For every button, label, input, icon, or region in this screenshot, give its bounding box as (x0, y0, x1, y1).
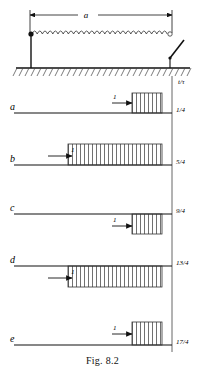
hatched-ground-plane (13, 68, 191, 76)
time-value-e: 17/4 (176, 338, 189, 346)
pulse-amplitude-a: 1 (113, 93, 117, 101)
figure-caption: Fig. 8.2 (0, 355, 205, 366)
waveform-row-c: 1 c 9/4 (10, 202, 185, 234)
time-value-d: 13/4 (176, 259, 189, 267)
open-terminal-dot (168, 32, 172, 36)
dimension-label-a: a (84, 10, 89, 20)
figure-8-2: a (0, 0, 205, 380)
row-label-a: a (10, 101, 15, 112)
row-label-b: b (10, 153, 15, 164)
time-axis-label: t/τ (178, 78, 185, 86)
time-value-b: 5/4 (176, 158, 185, 166)
dimension-a (30, 10, 172, 33)
open-switch[interactable] (168, 40, 184, 68)
circuit-diagram: a (13, 10, 191, 76)
pulse-amplitude-e: 1 (113, 324, 117, 332)
row-label-c: c (10, 202, 15, 213)
coil-inductor-line (32, 31, 167, 34)
pulse-amplitude-d: 1 (71, 268, 75, 276)
filled-dot-terminal (28, 31, 33, 36)
row-label-e: e (10, 333, 15, 344)
waveform-row-e: 1 e 17/4 (10, 322, 189, 346)
pulse-e (132, 322, 162, 345)
pulse-b (68, 144, 162, 165)
pulse-a (132, 93, 162, 113)
waveform-row-d: 1 d 13/4 (10, 254, 189, 287)
time-value-a: 1/4 (176, 106, 185, 114)
time-value-c: 9/4 (176, 207, 185, 215)
pulse-amplitude-c: 1 (113, 216, 117, 224)
waveform-row-b: 1 b 5/4 (10, 144, 185, 166)
row-label-d: d (10, 254, 16, 265)
pulse-d (68, 266, 162, 287)
pulse-amplitude-b: 1 (71, 146, 75, 154)
waveform-row-a: 1 a 1/4 (10, 93, 185, 114)
pulse-c (132, 214, 162, 234)
